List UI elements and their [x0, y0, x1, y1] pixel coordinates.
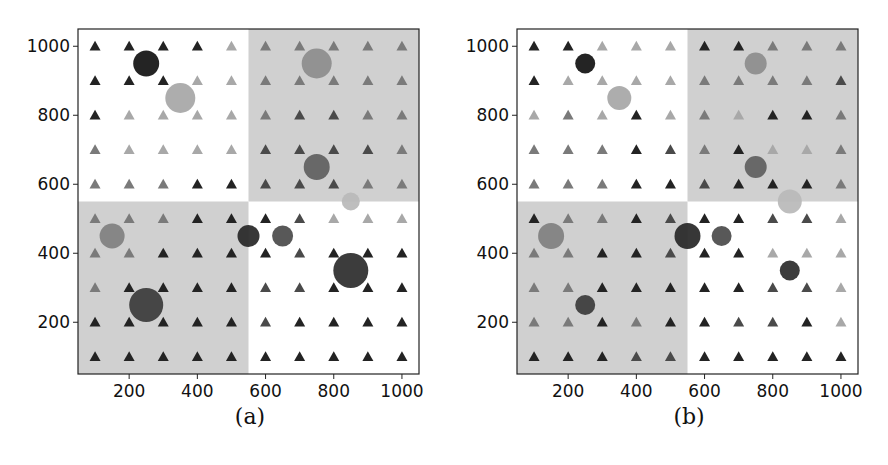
x-tick-label: 1000 [819, 381, 862, 401]
caption-b: (b) [673, 404, 704, 429]
x-tick-label: 200 [113, 381, 145, 401]
circle-marker [538, 223, 564, 249]
x-tick-label: 400 [181, 381, 213, 401]
panel-b: 20040060080010002004006008001000 (b) [439, 0, 883, 465]
scatter-plot-b: 20040060080010002004006008001000 [439, 0, 883, 465]
y-tick-label: 1000 [27, 36, 70, 56]
y-tick-label: 1000 [466, 36, 509, 56]
circle-marker [304, 154, 330, 180]
circle-marker [100, 224, 125, 249]
circle-marker [342, 193, 360, 211]
x-tick-label: 800 [318, 381, 350, 401]
circle-marker [745, 53, 767, 75]
circle-marker [712, 226, 732, 246]
circle-marker [778, 190, 802, 214]
circle-marker [745, 156, 767, 178]
scatter-plot-a: 20040060080010002004006008001000 [0, 0, 444, 465]
circle-marker [780, 261, 800, 281]
circle-marker [133, 51, 159, 77]
y-tick-label: 200 [477, 312, 509, 332]
y-tick-label: 400 [38, 243, 70, 263]
y-tick-label: 800 [38, 105, 70, 125]
x-tick-label: 800 [757, 381, 789, 401]
circle-marker [129, 288, 163, 322]
circle-marker [575, 295, 595, 315]
circle-marker [302, 49, 332, 79]
panel-a: 20040060080010002004006008001000 (a) [0, 0, 444, 465]
y-tick-label: 600 [477, 174, 509, 194]
circle-marker [272, 226, 293, 247]
circle-marker [575, 54, 595, 74]
y-tick-label: 600 [38, 174, 70, 194]
x-tick-label: 600 [249, 381, 281, 401]
circle-marker [165, 83, 195, 113]
y-tick-label: 400 [477, 243, 509, 263]
x-tick-label: 600 [688, 381, 720, 401]
x-tick-label: 200 [552, 381, 584, 401]
x-tick-label: 1000 [380, 381, 423, 401]
y-tick-label: 200 [38, 312, 70, 332]
x-tick-label: 400 [620, 381, 652, 401]
y-tick-label: 800 [477, 105, 509, 125]
circle-marker [607, 86, 631, 110]
circle-marker [675, 223, 701, 249]
caption-a: (a) [235, 404, 265, 429]
circle-marker [333, 253, 368, 288]
circle-marker [238, 225, 260, 247]
